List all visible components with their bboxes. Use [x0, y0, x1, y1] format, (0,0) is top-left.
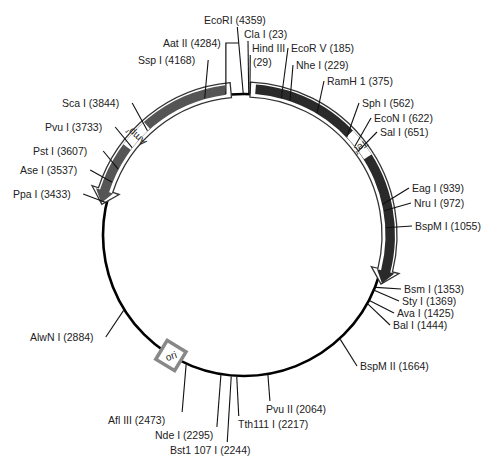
site-bsm-i: Bsm I (1353): [376, 283, 464, 295]
site-label: Nhe I (229): [296, 59, 349, 71]
site-label: Ssp I (4168): [138, 54, 195, 66]
site-label: Pvu I (3733): [45, 121, 102, 133]
site-label: Sty I (1369): [402, 295, 456, 307]
site-label: BspM II (1664): [360, 360, 429, 372]
site-label: BspM I (1055): [415, 220, 481, 232]
site-ase-i: Ase I (3537): [20, 164, 112, 182]
site-label: Ava I (1425): [397, 307, 454, 319]
site-label: Afl III (2473): [108, 414, 165, 426]
site-label: EcoN I (622): [374, 112, 433, 124]
site-pvu-ii: Pvu II (2064): [266, 375, 326, 415]
site-label: Pvu II (2064): [266, 403, 326, 415]
site-label-2: (29): [253, 56, 272, 68]
plasmid-map: TetrAmprori EcoRI (4359)Cla I (23)Hind I…: [0, 0, 489, 472]
site-label: Nde I (2295): [155, 429, 213, 441]
site-label: Eag I (939): [412, 182, 464, 194]
site-label: Hind III: [252, 42, 285, 54]
site-bspm-i: BspM I (1055): [386, 220, 481, 232]
site-label: RamH 1 (375): [327, 75, 393, 87]
restriction-sites: EcoRI (4359)Cla I (23)Hind III(29)EcoR V…: [13, 14, 481, 456]
site-label: Ppa I (3433): [13, 188, 71, 200]
site-ppa-i: Ppa I (3433): [13, 188, 106, 202]
site-pvu-i: Pvu I (3733): [45, 121, 132, 148]
site-label: Sph I (562): [362, 97, 414, 109]
site-label: Sal I (651): [380, 126, 428, 138]
site-label: Bsm I (1353): [404, 283, 464, 295]
site-label: Tth111 I (2217): [238, 418, 308, 430]
site-label: Nru I (972): [414, 197, 464, 209]
site-label: Pst I (3607): [33, 145, 87, 157]
site-label: Sca I (3844): [62, 97, 119, 109]
site-afl-iii: Afl III (2473): [108, 365, 186, 426]
site-nde-i: Nde I (2295): [155, 375, 221, 441]
ori-marker: ori: [156, 340, 186, 370]
site-label: Bst1 107 I (2244): [170, 444, 251, 456]
site-label: EcoR V (185): [291, 42, 354, 54]
site-label: Ase I (3537): [20, 164, 77, 176]
site-label: EcoRI (4359): [204, 14, 266, 26]
site-label: Aat II (4284): [163, 37, 221, 49]
site-nru-i: Nru I (972): [384, 197, 464, 211]
site-label: Cla I (23): [244, 28, 287, 40]
site-label: AlwN I (2884): [30, 331, 94, 343]
site-alwn-i: AlwN I (2884): [30, 310, 124, 343]
site-label: Bal I (1444): [393, 319, 447, 331]
site-bspm-ii: BspM II (1664): [340, 339, 429, 372]
site-bst1-107-i: Bst1 107 I (2244): [170, 376, 251, 456]
